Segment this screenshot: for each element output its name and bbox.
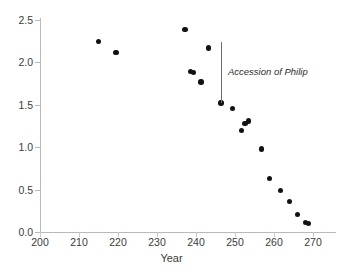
x-tick-label: 240 [187,236,205,248]
x-tick-label: 200 [31,236,49,248]
data-point [267,176,272,181]
annotation-pointer-line [221,42,222,103]
scatter-chart: 0.00.51.01.52.02.5 200210220230240250260… [0,0,343,277]
data-point [113,50,118,55]
data-point [259,146,264,151]
y-tick-label: 1.0 [18,141,33,153]
y-tick-mark [35,105,40,106]
data-point [295,212,300,217]
data-point [206,45,211,50]
data-point [306,221,311,226]
y-tick-mark [35,20,40,21]
x-tick-mark [196,232,197,237]
x-tick-mark [79,232,80,237]
data-point [198,79,203,84]
annotation-label: Accession of Philip [228,65,308,76]
x-tick-mark [313,232,314,237]
x-tick-label: 210 [70,236,88,248]
x-tick-mark [274,232,275,237]
x-tick-label: 230 [148,236,166,248]
data-point [230,106,235,111]
y-tick-label: 1.5 [18,99,33,111]
y-tick-mark [35,62,40,63]
x-tick-mark [118,232,119,237]
data-point [246,118,251,123]
y-tick-label: 2.0 [18,56,33,68]
x-tick-label: 220 [109,236,127,248]
x-axis-title: Year [0,252,343,264]
x-tick-label: 270 [304,236,322,248]
data-point [287,199,292,204]
data-point [182,27,187,32]
plot-area [40,20,313,232]
data-point [191,70,196,75]
y-tick-mark [35,190,40,191]
data-point [278,188,283,193]
x-axis-line [40,232,336,233]
y-tick-label: 0.5 [18,184,33,196]
y-tick-label: 2.5 [18,14,33,26]
data-point [96,39,101,44]
x-tick-mark [235,232,236,237]
y-tick-mark [35,147,40,148]
x-tick-label: 250 [226,236,244,248]
x-tick-mark [157,232,158,237]
x-tick-mark [40,232,41,237]
x-tick-label: 260 [265,236,283,248]
y-axis-ticks: 0.00.51.01.52.02.5 [0,0,33,277]
data-point [239,128,244,133]
